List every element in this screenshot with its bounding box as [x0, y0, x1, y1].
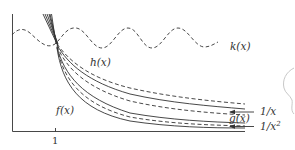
x-tick-label: 1	[52, 136, 58, 146]
function-diagram	[0, 0, 295, 150]
label-1-over-x: 1/x	[260, 106, 276, 117]
curve-bundle-top	[43, 14, 58, 46]
label-k: k(x)	[230, 41, 250, 52]
label-f: f(x)	[56, 105, 74, 116]
curve-f	[57, 47, 245, 123]
curve-g	[57, 47, 245, 126]
exponent-2: 2	[276, 120, 280, 128]
label-g: g(x)	[229, 113, 250, 124]
sketch-decoration	[283, 68, 294, 114]
curve-mid-dashed	[57, 46, 245, 115]
curve-k	[12, 28, 218, 48]
label-1-over-x2: 1/x2	[260, 121, 281, 132]
curve-1-over-x	[57, 45, 245, 109]
label-h: h(x)	[90, 57, 111, 68]
